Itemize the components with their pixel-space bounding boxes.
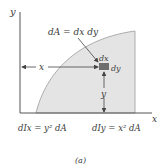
y-distance-label: y <box>100 89 107 99</box>
dy-label: dy <box>111 64 121 73</box>
x-axis-label: x <box>152 114 157 124</box>
figure-caption: (a) <box>75 156 86 165</box>
element-dA-square <box>99 63 109 70</box>
y-axis-label: y <box>9 6 16 17</box>
formula-ix: dIx = y² dA <box>18 123 67 133</box>
formula-iy: dIy = x² dA <box>92 123 141 133</box>
area-moment-diagram: y x dA = dx dy dx dy x y dIx = y² dA dIy… <box>0 0 165 168</box>
element-label: dA = dx dy <box>48 27 99 37</box>
x-distance-label: x <box>39 62 44 72</box>
dx-label: dx <box>99 54 109 63</box>
